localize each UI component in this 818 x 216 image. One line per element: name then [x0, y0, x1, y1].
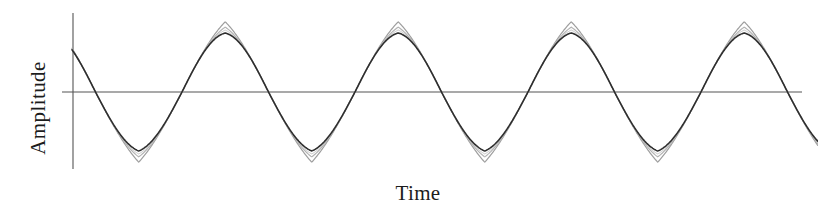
- axis-group: [62, 13, 802, 169]
- x-axis-label: Time: [0, 181, 818, 206]
- waveform-figure: Amplitude Time: [0, 0, 818, 216]
